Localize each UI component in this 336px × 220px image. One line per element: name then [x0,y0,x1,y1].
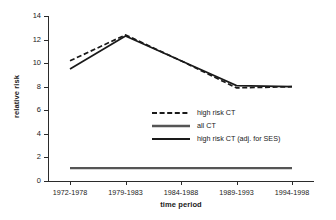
legend-item: all CT [152,119,332,132]
legend-item: high risk CT [152,106,332,119]
legend-item: high risk CT (adj. for SES) [152,132,332,145]
y-tick-label: 4 [37,129,41,139]
series-lines [48,16,314,181]
y-tick: 0 [44,181,48,182]
legend-swatch [152,122,190,130]
x-axis-title: time period [48,200,314,209]
plot-area: 02468101214 1972-19781979-19831984-19881… [48,16,314,181]
legend-swatch [152,109,190,117]
x-tick [126,181,127,185]
legend-swatch [152,135,190,143]
x-tick [70,181,71,185]
relative-risk-line-chart: relative risk 02468101214 1972-19781979-… [0,0,336,220]
y-tick-label: 10 [33,58,41,68]
y-tick-label: 12 [33,35,41,45]
y-tick-label: 14 [33,11,41,21]
x-tick [237,181,238,185]
y-tick-label: 8 [37,82,41,92]
y-tick-label: 0 [37,176,41,186]
legend-label: high risk CT [197,108,235,117]
x-tick-label: 1972-1978 [39,188,101,198]
legend-label: high risk CT (adj. for SES) [197,134,280,143]
x-tick-label: 1979-1983 [95,188,157,198]
chart-legend: high risk CTall CThigh risk CT (adj. for… [152,106,332,145]
series-line [70,36,292,87]
y-axis-title: relative risk [12,57,21,137]
y-tick-label: 2 [37,152,41,162]
x-tick [181,181,182,185]
legend-label: all CT [197,121,216,130]
x-tick [292,181,293,185]
x-tick-label: 1984-1988 [150,188,212,198]
x-tick-label: 1989-1993 [206,188,268,198]
y-tick-label: 6 [37,105,41,115]
x-tick-label: 1994-1998 [261,188,323,198]
